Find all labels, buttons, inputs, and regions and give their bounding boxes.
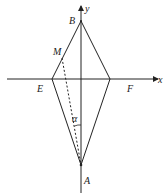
label-B: B (69, 15, 75, 26)
point-A (80, 164, 83, 167)
point-B (80, 20, 82, 22)
label-y: y (84, 3, 90, 14)
angle-alpha-arc (75, 125, 82, 126)
geometry-diagram: y B M E F x α A (0, 0, 166, 194)
label-A: A (83, 175, 91, 186)
label-F: F (126, 83, 134, 94)
label-M: M (52, 46, 62, 57)
label-x: x (157, 74, 163, 85)
dashed-segment-MA (62, 58, 81, 165)
label-alpha: α (72, 113, 78, 124)
label-E: E (36, 83, 43, 94)
